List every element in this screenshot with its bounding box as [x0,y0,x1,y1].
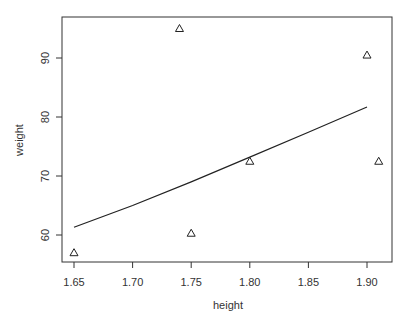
x-tick-label: 1.65 [63,276,84,288]
triangle-marker-icon [375,157,383,164]
x-tick-label: 1.75 [180,276,201,288]
scatter-plot: 1.651.701.751.801.851.90 60708090 height… [0,0,410,326]
y-tick-label: 80 [39,111,51,123]
triangle-marker-icon [70,249,78,256]
x-tick-label: 1.90 [356,276,377,288]
y-tick-label: 60 [39,229,51,241]
data-points [70,25,383,256]
triangle-marker-icon [175,25,183,32]
y-axis-label: weight [13,124,25,157]
x-tick-label: 1.80 [239,276,260,288]
triangle-marker-icon [363,51,371,58]
x-axis-label: height [213,299,243,311]
x-tick-label: 1.85 [298,276,319,288]
y-axis: 60708090 [39,52,62,241]
x-tick-label: 1.70 [122,276,143,288]
plot-frame [62,17,392,262]
triangle-marker-icon [187,229,195,236]
x-axis: 1.651.701.751.801.851.90 [63,262,377,288]
y-tick-label: 90 [39,52,51,64]
y-tick-label: 70 [39,170,51,182]
fitted-curve [74,107,367,227]
